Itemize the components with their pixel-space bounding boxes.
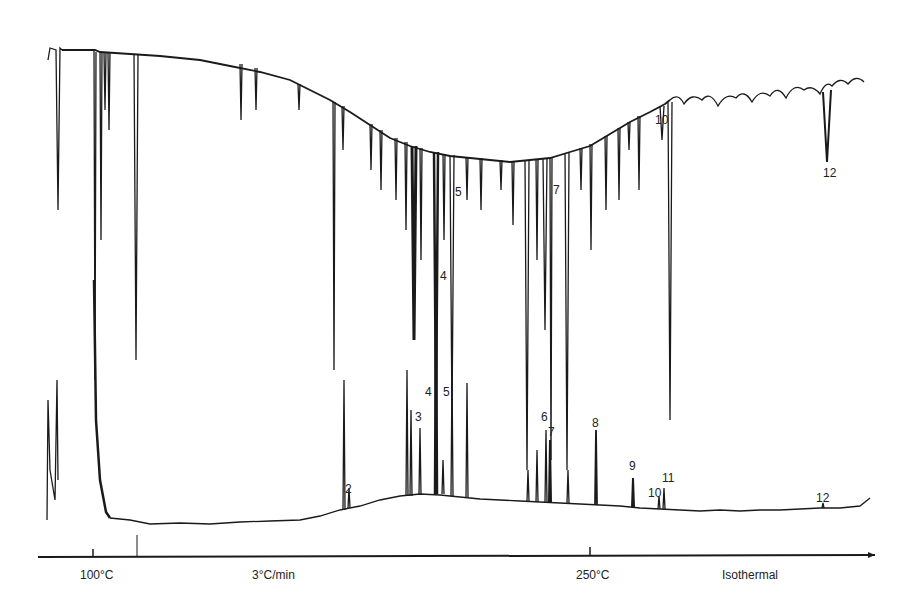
peak-label-lower-5: 5: [443, 385, 450, 399]
x-axis: [38, 535, 875, 558]
peak-label-upper-10: 10: [655, 113, 669, 127]
x-tick-100c: 100°C: [80, 568, 114, 582]
peak-label-upper-5: 5: [455, 185, 462, 199]
x-tick-isothermal: Isothermal: [722, 568, 778, 582]
peak-label-lower-10: 10: [648, 486, 662, 500]
chromatogram-chart: 100°C 3°C/min 250°C Isothermal 12 10 7 5…: [0, 0, 909, 612]
peak-label-lower-12: 12: [816, 491, 830, 505]
peak-label-lower-2: 2: [345, 482, 352, 496]
peak-label-lower-3: 3: [415, 410, 422, 424]
x-tick-rate: 3°C/min: [252, 568, 295, 582]
peak-label-lower-11: 11: [662, 471, 675, 485]
x-tick-250c: 250°C: [576, 568, 610, 582]
peak-label-upper-4: 4: [440, 269, 447, 283]
upper-trace: [48, 48, 864, 470]
peak-label-upper-7: 7: [553, 183, 560, 197]
peak-label-lower-7: 7: [548, 425, 555, 439]
peak-label-lower-4: 4: [425, 385, 432, 399]
peak-label-lower-6: 6: [541, 410, 548, 424]
peak-label-lower-8: 8: [592, 416, 599, 430]
lower-trace: [47, 280, 870, 524]
peak-label-upper-12: 12: [823, 166, 837, 180]
peak-label-lower-9: 9: [629, 459, 636, 473]
